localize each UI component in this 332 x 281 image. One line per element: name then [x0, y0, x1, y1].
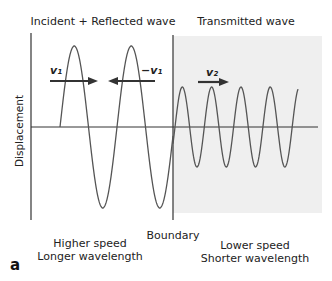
- right-region-wavelength: Shorter wavelength: [201, 252, 309, 265]
- incident-reflected-title: Incident + Reflected wave: [31, 15, 176, 28]
- velocity-arrow-v1: [50, 77, 98, 85]
- y-axis-label: Displacement: [13, 95, 25, 167]
- right-region-speed: Lower speed: [220, 239, 290, 252]
- panel-label: a: [10, 256, 20, 274]
- left-region-wavelength: Longer wavelength: [37, 250, 142, 263]
- velocity-arrow-minus-v1: [108, 77, 155, 85]
- v2-label: v₂: [206, 66, 218, 79]
- minus-v1-label: −v₁: [141, 64, 162, 77]
- v1-label: v₁: [50, 64, 62, 77]
- left-region-speed: Higher speed: [53, 237, 126, 250]
- boundary-label: Boundary: [147, 229, 200, 242]
- transmitted-title: Transmitted wave: [197, 15, 295, 28]
